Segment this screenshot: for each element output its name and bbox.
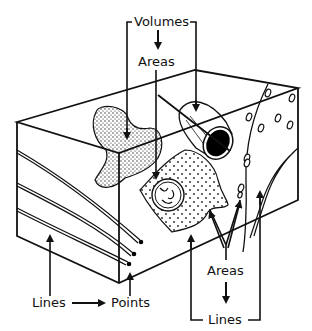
- fiber-points: [127, 240, 144, 267]
- tissue-block-diagram: [0, 0, 312, 331]
- label-areas-top: Areas: [137, 55, 176, 69]
- label-areas-bottom: Areas: [206, 264, 245, 278]
- perforated-sheet: [243, 84, 268, 252]
- membrane-double-line: [250, 148, 298, 238]
- label-volumes-top: Volumes: [133, 15, 190, 29]
- areas-bottom-pointers: [210, 200, 240, 260]
- label-lines-left: Lines: [31, 296, 67, 310]
- label-lines-bottom: Lines: [207, 313, 243, 327]
- cross-section-area: [152, 179, 184, 211]
- label-points: Points: [110, 296, 151, 310]
